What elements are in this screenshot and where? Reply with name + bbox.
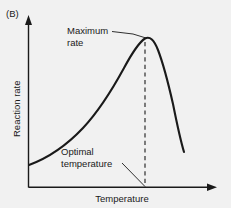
optimal-temperature-label-line2: temperature: [61, 158, 112, 169]
optimal-temperature-label-line1: Optimal: [61, 146, 94, 157]
optimal-temperature-leader-line: [122, 163, 145, 186]
reaction-rate-curve: [29, 38, 184, 165]
maximum-rate-label-line1: Maximum: [67, 25, 108, 36]
y-axis-arrowhead: [25, 15, 32, 25]
x-axis-arrowhead: [207, 184, 217, 191]
reaction-rate-temperature-chart: (B) Maximum rate Optimal temperature Rea…: [0, 0, 231, 208]
figure-panel: (B) Maximum rate Optimal temperature Rea…: [0, 0, 231, 208]
maximum-rate-label-line2: rate: [67, 37, 83, 48]
x-axis-title: Temperature: [95, 193, 148, 204]
panel-label: (B): [6, 8, 19, 19]
maximum-rate-leader-line: [112, 32, 146, 39]
y-axis-title: Reaction rate: [11, 80, 22, 137]
